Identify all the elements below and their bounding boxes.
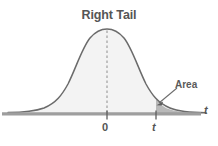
area-leader-line	[159, 88, 177, 103]
chart-title: Right Tail	[0, 9, 218, 22]
area-annotation-label: Area	[175, 80, 197, 90]
x-tick-label-zero: 0	[102, 122, 108, 133]
x-tick-label-critical-t: t	[152, 122, 156, 133]
right-tail-distribution-figure: Right Tail Area 0 t t	[0, 0, 218, 146]
x-axis-label: t	[204, 105, 208, 116]
